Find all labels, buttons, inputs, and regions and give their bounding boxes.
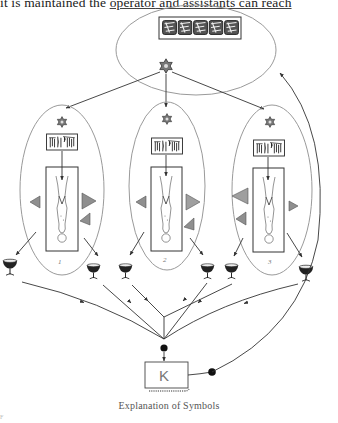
goblet-icon <box>3 259 17 275</box>
goblet-icon <box>87 264 101 279</box>
star-icon <box>160 59 172 73</box>
star-icon <box>265 117 274 128</box>
station-1-label: 1 <box>58 258 62 266</box>
figure-caption: Explanation of Symbols <box>0 400 338 411</box>
station-3: 3 <box>232 105 312 275</box>
goblets <box>3 259 313 281</box>
star-icon <box>57 117 66 128</box>
station-2: 2 <box>129 102 205 270</box>
station-3-label: 3 <box>267 258 272 266</box>
goblet-icon <box>225 264 239 279</box>
ritual-flow-diagram: 1 2 3 <box>0 0 338 423</box>
station-1: 1 <box>20 105 104 275</box>
star-icon <box>162 114 171 125</box>
goblet-icon <box>201 264 215 279</box>
junction-dot <box>160 344 167 351</box>
station-2-label: 2 <box>163 256 167 264</box>
goblet-icon <box>119 264 133 279</box>
corner-mark: F <box>0 414 3 420</box>
sink-label: K <box>159 367 169 384</box>
image-strip <box>159 17 241 39</box>
